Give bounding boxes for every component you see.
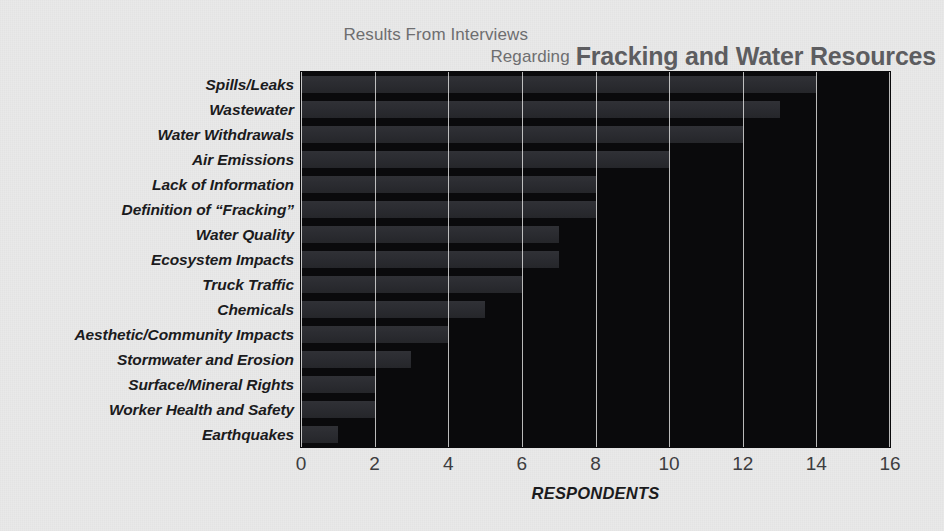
bar <box>301 326 448 343</box>
x-tick-label: 0 <box>296 453 307 475</box>
bar-row <box>301 72 890 97</box>
bar <box>301 426 338 443</box>
bar <box>301 76 816 93</box>
x-axis-title: RESPONDENTS <box>301 484 890 503</box>
x-tick-label: 16 <box>879 453 900 475</box>
bar <box>301 126 743 143</box>
bar-row <box>301 147 890 172</box>
bar-row <box>301 372 890 397</box>
category-label: Surface/Mineral Rights <box>128 372 294 397</box>
bar <box>301 376 375 393</box>
bars-layer <box>301 72 890 447</box>
title-kicker-line2: Regarding <box>490 47 569 66</box>
category-axis-labels: Spills/LeaksWastewaterWater WithdrawalsA… <box>0 72 294 447</box>
bar-row <box>301 122 890 147</box>
bar-row <box>301 247 890 272</box>
value-axis-ticks: 0246810121416 <box>301 447 890 477</box>
bar-row <box>301 222 890 247</box>
chart-title-block: Results From Interviews RegardingFrackin… <box>0 26 936 70</box>
category-label: Earthquakes <box>202 422 294 447</box>
x-tick-label: 8 <box>590 453 601 475</box>
x-tick-label: 14 <box>806 453 827 475</box>
category-label: Truck Traffic <box>202 272 294 297</box>
category-label: Worker Health and Safety <box>109 397 294 422</box>
category-label: Lack of Information <box>152 172 294 197</box>
category-label: Aesthetic/Community Impacts <box>74 322 294 347</box>
bar-row <box>301 397 890 422</box>
bar <box>301 251 559 268</box>
x-tick-label: 10 <box>659 453 680 475</box>
title-kicker-line1: Results From Interviews <box>0 26 936 43</box>
bar-row <box>301 347 890 372</box>
bar-row <box>301 197 890 222</box>
x-tick-label: 2 <box>369 453 380 475</box>
bar-row <box>301 172 890 197</box>
category-label: Water Quality <box>196 222 294 247</box>
bar <box>301 401 375 418</box>
bar <box>301 201 596 218</box>
bar-row <box>301 272 890 297</box>
bar-row <box>301 297 890 322</box>
category-label: Ecosystem Impacts <box>151 247 294 272</box>
bar <box>301 276 522 293</box>
bar-row <box>301 322 890 347</box>
bar-chart-plot-area <box>301 72 890 447</box>
category-label: Water Withdrawals <box>157 122 294 147</box>
category-label: Stormwater and Erosion <box>117 347 294 372</box>
category-label: Chemicals <box>217 297 294 322</box>
x-tick-label: 4 <box>443 453 454 475</box>
bar <box>301 101 780 118</box>
x-tick-label: 12 <box>732 453 753 475</box>
bar <box>301 176 596 193</box>
bar-row <box>301 97 890 122</box>
bar-row <box>301 422 890 447</box>
category-label: Definition of “Fracking” <box>122 197 294 222</box>
category-label: Air Emissions <box>192 147 294 172</box>
x-tick-label: 6 <box>517 453 528 475</box>
bar <box>301 151 669 168</box>
page-title: Fracking and Water Resources <box>576 42 936 70</box>
bar <box>301 301 485 318</box>
category-label: Spills/Leaks <box>206 72 294 97</box>
bar <box>301 351 411 368</box>
title-main-row: RegardingFracking and Water Resources <box>0 44 936 70</box>
category-label: Wastewater <box>209 97 294 122</box>
bar <box>301 226 559 243</box>
